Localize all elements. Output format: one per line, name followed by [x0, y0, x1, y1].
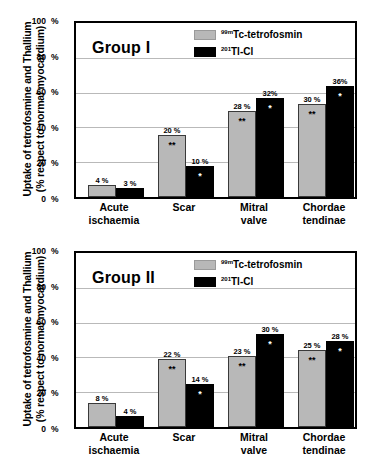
y-tick-40: 40%	[24, 123, 70, 133]
bar-group-ii-chordae-tl: 28 % *	[326, 341, 354, 427]
plot-area-group-i: Group I 99mTc-tetrofosmin 201Tl-Cl 4 %	[74, 21, 357, 199]
y-tick-60: 60%	[24, 87, 70, 97]
bar-group-i-mitral-tc: 28 % **	[228, 111, 256, 197]
y-tick-20: 20%	[24, 158, 70, 168]
bar-sig-group-ii-scar-tc: **	[168, 365, 175, 373]
bar-value-group-ii-mitral-tc: 23 %	[233, 347, 250, 356]
y-axis-ticks-2: 100% 80% 60% 40% 20% 0%	[22, 251, 70, 429]
bar-sig-group-ii-chordae-tc: **	[308, 356, 315, 364]
bar-group-ii-scar-tc: 22 % **	[158, 359, 186, 427]
x-label-scar-2: Scar	[144, 431, 224, 444]
bar-group-ii-chordae-tc: 25 % **	[298, 350, 326, 427]
bar-value-group-ii-mitral-tl: 30 %	[261, 325, 278, 334]
bar-group-ii-mitral-tl: 30 % *	[256, 334, 284, 427]
y-axis-ticks: 100% 80% 60% 40% 20% 0%	[22, 21, 70, 199]
bar-value-group-i-scar-tc: 20 %	[163, 126, 180, 135]
y-tick-2-40: 40%	[24, 353, 70, 363]
bar-group-i-scar-tc: 20 % **	[158, 135, 186, 197]
x-label-mitral-valve: Mitral valve	[214, 201, 294, 227]
bar-group-i-mitral-tl: 32% *	[256, 98, 284, 197]
bar-value-group-ii-scar-tl: 14 %	[191, 375, 208, 384]
panel-group-i: Uptake of tetrofosmine and Thallium (% r…	[0, 0, 369, 230]
y-tick-2-20: 20%	[24, 388, 70, 398]
plot-area-group-ii: Group II 99mTc-tetrofosmin 201Tl-Cl 8 %	[74, 251, 357, 429]
bar-group-ii-mitral-tc: 23 % **	[228, 356, 256, 427]
y-tick-80: 80%	[24, 52, 70, 62]
bars-group-i: 4 % 3 % 20 % ** 10 % * 28 %	[76, 23, 355, 197]
bar-value-group-i-acute-tc: 4 %	[96, 176, 109, 185]
bar-value-group-i-scar-tl: 10 %	[191, 157, 208, 166]
bar-value-group-i-mitral-tl: 32%	[262, 89, 277, 98]
bar-group-ii-acute-tc: 8 %	[88, 403, 116, 427]
bar-sig-group-i-scar-tl: *	[198, 172, 202, 180]
bar-value-group-i-chordae-tl: 36%	[332, 77, 347, 86]
bar-group-i-scar-tl: 10 % *	[186, 166, 214, 197]
bar-sig-group-i-mitral-tc: **	[238, 117, 245, 125]
x-label-scar: Scar	[144, 201, 224, 214]
bar-group-ii-acute-tl: 4 %	[116, 416, 144, 427]
x-label-acute-ischaemia: Acute ischaemia	[74, 201, 154, 227]
x-axis-labels-group-ii: Acute ischaemia Scar Mitral valve Chorda…	[74, 431, 357, 460]
x-axis-labels-group-i: Acute ischaemia Scar Mitral valve Chorda…	[74, 201, 357, 231]
y-tick-0: 0%	[24, 194, 70, 204]
x-label-mitral-valve-2: Mitral valve	[214, 431, 294, 457]
figure-two-panel-bar-chart: Uptake of tetrofosmine and Thallium (% r…	[0, 0, 369, 460]
bar-sig-group-i-chordae-tc: **	[308, 110, 315, 118]
bar-value-group-ii-chordae-tl: 28 %	[331, 332, 348, 341]
bar-value-group-i-chordae-tc: 30 %	[303, 95, 320, 104]
bar-value-group-ii-acute-tc: 8 %	[96, 394, 109, 403]
bars-group-ii: 8 % 4 % 22 % ** 14 % * 23 %	[76, 253, 355, 427]
bar-group-ii-scar-tl: 14 % *	[186, 384, 214, 427]
bar-sig-group-ii-mitral-tl: *	[268, 340, 272, 348]
bar-value-group-ii-scar-tc: 22 %	[163, 350, 180, 359]
bar-group-i-chordae-tc: 30 % **	[298, 104, 326, 197]
bar-value-group-ii-acute-tl: 4 %	[124, 407, 137, 416]
bar-sig-group-ii-scar-tl: *	[198, 390, 202, 398]
y-tick-2-0: 0%	[24, 424, 70, 434]
x-label-chordae-tendinae: Chordae tendinae	[284, 201, 364, 227]
y-tick-2-100: 100%	[24, 246, 70, 256]
bar-sig-group-i-scar-tc: **	[168, 141, 175, 149]
bar-value-group-i-mitral-tc: 28 %	[233, 102, 250, 111]
bar-group-i-acute-tc: 4 %	[88, 185, 116, 197]
x-label-chordae-tendinae-2: Chordae tendinae	[284, 431, 364, 457]
bar-group-i-chordae-tl: 36% *	[326, 86, 354, 197]
y-tick-2-80: 80%	[24, 282, 70, 292]
bar-sig-group-ii-mitral-tc: **	[238, 362, 245, 370]
panel-group-ii: Uptake of tetrofosmine and Thallium (% r…	[0, 230, 369, 460]
bar-value-group-i-acute-tl: 3 %	[124, 179, 137, 188]
bar-value-group-ii-chordae-tc: 25 %	[303, 341, 320, 350]
y-tick-2-60: 60%	[24, 317, 70, 327]
bar-sig-group-i-chordae-tl: *	[338, 92, 342, 100]
x-label-acute-ischaemia-2: Acute ischaemia	[74, 431, 154, 457]
bar-sig-group-i-mitral-tl: *	[268, 104, 272, 112]
y-tick-100: 100%	[24, 16, 70, 26]
bar-sig-group-ii-chordae-tl: *	[338, 347, 342, 355]
bar-group-i-acute-tl: 3 %	[116, 188, 144, 197]
